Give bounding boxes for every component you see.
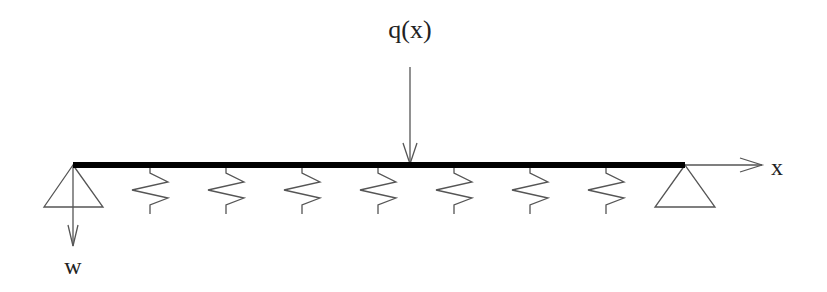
right-support-icon bbox=[655, 165, 715, 207]
beam-diagram: q(x) x w bbox=[0, 0, 827, 292]
spring-icon bbox=[208, 168, 244, 214]
load-arrow-icon bbox=[403, 67, 417, 164]
spring-icon bbox=[284, 168, 320, 214]
x-axis-label: x bbox=[771, 154, 783, 180]
x-axis-arrow-icon bbox=[685, 158, 762, 172]
deflection-label: w bbox=[64, 253, 82, 279]
spring-foundation bbox=[132, 168, 624, 214]
spring-icon bbox=[588, 168, 624, 214]
load-label: q(x) bbox=[388, 15, 431, 44]
spring-icon bbox=[436, 168, 472, 214]
spring-icon bbox=[132, 168, 168, 214]
spring-icon bbox=[512, 168, 548, 214]
spring-icon bbox=[360, 168, 396, 214]
beam bbox=[73, 162, 685, 168]
deflection-arrow-icon bbox=[68, 165, 78, 246]
